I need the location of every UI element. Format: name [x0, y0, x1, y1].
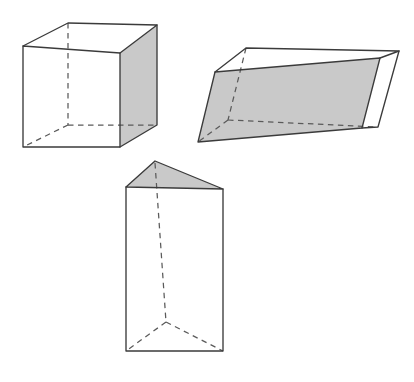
- geometric-solids-figure: Three geometric solids: [0, 0, 414, 382]
- solids-drawing-canvas: Three geometric solids: [0, 0, 414, 382]
- shape-triangular-prism: [126, 161, 223, 351]
- shape-parallelepiped: [198, 48, 399, 142]
- prism-top-face-shaded: [126, 161, 223, 189]
- cube-front-face: [23, 46, 120, 147]
- prism-front-face: [126, 187, 223, 351]
- shape-cube: [23, 23, 157, 147]
